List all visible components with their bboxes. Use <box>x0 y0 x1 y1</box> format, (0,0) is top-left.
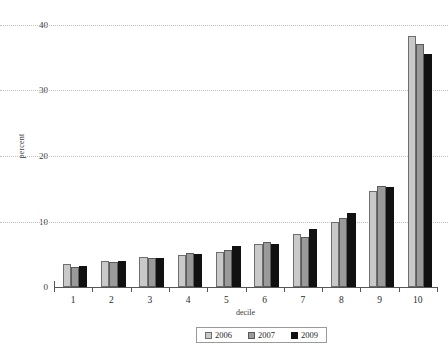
bar-2007-decile-9 <box>377 186 385 287</box>
legend-item-2007[interactable]: 2007 <box>248 331 275 340</box>
x-tick-10 <box>437 287 438 292</box>
x-tick-label-7: 7 <box>288 295 318 305</box>
x-tick-7 <box>322 287 323 292</box>
bar-2006-decile-3 <box>139 257 147 287</box>
x-tick-1 <box>92 287 93 292</box>
legend-swatch-icon-2006 <box>205 332 212 339</box>
y-axis-title: percent <box>18 116 26 176</box>
legend-swatch-icon-2007 <box>248 332 255 339</box>
x-tick-label-5: 5 <box>211 295 241 305</box>
x-tick-9 <box>399 287 400 292</box>
x-tick-6 <box>284 287 285 292</box>
x-tick-5 <box>246 287 247 292</box>
legend: 2006 2007 2009 <box>196 327 327 343</box>
legend-label-2006: 2006 <box>215 331 232 340</box>
bar-2007-decile-3 <box>148 258 156 287</box>
bar-2007-decile-6 <box>263 242 271 287</box>
bar-2007-decile-5 <box>224 250 232 287</box>
bar-2006-decile-8 <box>331 222 339 287</box>
x-tick-2 <box>131 287 132 292</box>
bar-2007-decile-2 <box>109 262 117 287</box>
bar-2009-decile-10 <box>424 54 432 287</box>
plot-area <box>54 25 437 287</box>
bar-2009-decile-3 <box>156 258 164 287</box>
bar-2006-decile-4 <box>178 255 186 287</box>
bar-2006-decile-7 <box>293 234 301 287</box>
legend-label-2009: 2009 <box>301 331 318 340</box>
x-tick-label-6: 6 <box>250 295 280 305</box>
y-tick-label-0: 0 <box>26 283 48 292</box>
bar-2009-decile-4 <box>194 254 202 287</box>
x-tick-label-8: 8 <box>326 295 356 305</box>
x-tick-label-10: 10 <box>403 295 433 305</box>
x-tick-label-9: 9 <box>365 295 395 305</box>
bar-2007-decile-10 <box>416 44 424 287</box>
x-tick-origin <box>54 287 55 292</box>
bar-2009-decile-1 <box>79 266 87 287</box>
bar-2009-decile-9 <box>386 187 394 287</box>
legend-label-2007: 2007 <box>258 331 275 340</box>
x-tick-3 <box>169 287 170 292</box>
bar-2006-decile-10 <box>408 36 416 287</box>
bar-2007-decile-8 <box>339 218 347 287</box>
bar-2009-decile-2 <box>118 261 126 287</box>
x-tick-label-4: 4 <box>173 295 203 305</box>
legend-item-2006[interactable]: 2006 <box>205 331 232 340</box>
legend-swatch-icon-2009 <box>291 332 298 339</box>
bar-2006-decile-9 <box>369 191 377 287</box>
x-tick-8 <box>360 287 361 292</box>
bar-2009-decile-6 <box>271 244 279 287</box>
bar-2006-decile-2 <box>101 261 109 287</box>
bar-2006-decile-6 <box>254 244 262 287</box>
bar-2007-decile-4 <box>186 253 194 287</box>
legend-item-2009[interactable]: 2009 <box>291 331 318 340</box>
x-tick-4 <box>207 287 208 292</box>
x-tick-label-3: 3 <box>135 295 165 305</box>
x-tick-label-2: 2 <box>96 295 126 305</box>
bar-2007-decile-7 <box>301 237 309 287</box>
bar-chart: percent 40 30 20 10 0 12345678910 decile… <box>0 0 448 360</box>
x-tick-label-1: 1 <box>58 295 88 305</box>
bar-2006-decile-1 <box>63 264 71 287</box>
bar-2006-decile-5 <box>216 252 224 287</box>
bar-2007-decile-1 <box>71 267 79 287</box>
bar-2009-decile-5 <box>232 246 240 287</box>
x-axis-title: decile <box>54 308 437 317</box>
bar-2009-decile-7 <box>309 229 317 287</box>
bar-2009-decile-8 <box>347 213 355 287</box>
